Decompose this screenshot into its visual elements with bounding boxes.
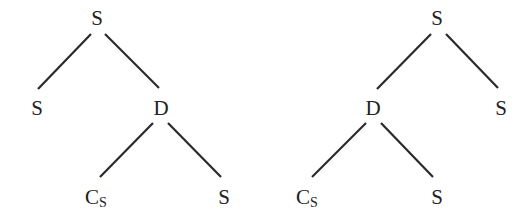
- node-label: D: [365, 96, 380, 120]
- syntax-tree-diagram: SSDCSSSDSCSS: [0, 0, 532, 218]
- left-tree-edges: [38, 34, 221, 177]
- edge-d-to-s-right: [168, 123, 221, 177]
- left-tree-node-d: D: [153, 98, 168, 119]
- left-tree-node-root: S: [91, 8, 103, 29]
- left-tree-node-cs: CS: [85, 187, 107, 208]
- node-label: S: [431, 185, 443, 209]
- edge-d-to-s-mid: [381, 123, 433, 177]
- left-tree-node-s-right: S: [218, 187, 230, 208]
- node-label: S: [495, 96, 507, 120]
- node-label: S: [431, 6, 443, 30]
- edge-root-to-s-left: [38, 34, 91, 89]
- right-tree-node-cs: CS: [296, 187, 318, 208]
- node-label: C: [296, 185, 310, 209]
- node-subscript: S: [99, 195, 107, 210]
- node-label: S: [218, 185, 230, 209]
- tree-edges: [0, 0, 532, 218]
- node-label: S: [91, 6, 103, 30]
- edge-d-to-cs: [312, 123, 366, 177]
- edge-root-to-d: [377, 34, 431, 89]
- node-subscript: S: [310, 195, 318, 210]
- node-label: C: [85, 185, 99, 209]
- right-tree-node-d: D: [365, 98, 380, 119]
- right-tree-node-s-right: S: [495, 98, 507, 119]
- edge-d-to-cs: [100, 123, 153, 177]
- left-tree-node-s-left: S: [31, 98, 43, 119]
- right-tree-edges: [312, 34, 498, 177]
- edge-root-to-s-right: [446, 34, 498, 88]
- right-tree-node-s-mid: S: [431, 187, 443, 208]
- right-tree-node-root: S: [431, 8, 443, 29]
- edge-root-to-d: [105, 34, 159, 88]
- node-label: D: [153, 96, 168, 120]
- node-label: S: [31, 96, 43, 120]
